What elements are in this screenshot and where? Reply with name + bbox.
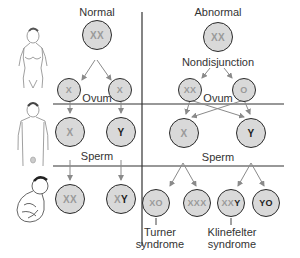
normal-sperm-cell-x: X [55,117,85,147]
offspring-xo: XO [142,189,170,217]
male-figure-icon [18,103,48,166]
abnormal-sperm-label: Sperm [202,151,234,163]
nondisjunction-label: Nondisjunction [182,56,254,68]
fetus-figure-icon [17,177,48,222]
normal-title: Normal [79,6,114,18]
figures [0,0,60,258]
female-figure-icon [19,29,47,89]
normal-mother-cell: XX [82,20,112,50]
normal-sperm-label: Sperm [81,150,113,162]
offspring-xxy: XXY [217,189,245,217]
abnormal-ovum-cell-xx: XX [178,78,202,102]
normal-sperm-cell-y: Y [106,117,136,147]
abnormal-sperm-cell-y: Y [236,118,266,148]
normal-offspring-xy: XY [106,184,136,214]
offspring-xxx: XXX [183,189,211,217]
abnormal-sperm-cell-x: X [169,118,199,148]
turner-label-line1: Turner [144,226,176,238]
klinefelter-label-line2: syndrome [208,238,256,250]
abnormal-ovum-label: Ovum [203,92,232,104]
nondisjunction-diagram: Normal Abnormal XX X X Ovum X Y Sperm XX… [0,0,300,258]
normal-offspring-xx: XX [55,184,85,214]
abnormal-mother-cell: XX [203,22,233,52]
abnormal-title: Abnormal [194,6,241,18]
normal-ovum-label: Ovum [82,92,111,104]
offspring-yo: YO [252,189,280,217]
abnormal-ovum-cell-o: O [232,78,256,102]
normal-ovum-cell-1: X [57,78,81,102]
klinefelter-label-line1: Klinefelter [208,226,257,238]
turner-label-line2: syndrome [136,238,184,250]
